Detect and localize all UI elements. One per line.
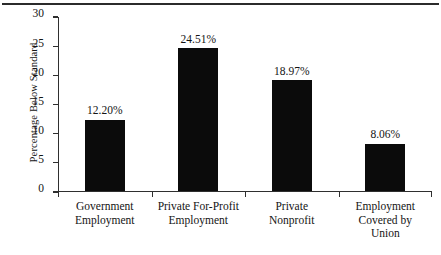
x-category-label-line: Employment [152, 214, 246, 228]
y-tick-20: 20 [53, 75, 58, 76]
x-category-label-line: Nonprofit [245, 214, 339, 228]
x-tick-0 [58, 192, 59, 197]
x-category-label-line: Employment [58, 214, 152, 228]
x-tick-2 [245, 192, 246, 197]
y-tick-label-5: 5 [38, 154, 44, 166]
y-tick-label-15: 15 [33, 96, 45, 108]
top-divider-rule [2, 3, 439, 5]
x-category-label-2: PrivateNonprofit [245, 200, 339, 227]
x-tick-3 [339, 192, 340, 197]
bar-value-label-0: 12.20% [87, 105, 122, 117]
y-tick-15: 15 [53, 104, 58, 105]
y-tick-5: 5 [53, 162, 58, 163]
bar-0[interactable]: 12.20% [85, 120, 125, 191]
bar-value-label-3: 8.06% [370, 129, 400, 141]
x-category-label-1: Private For-ProfitEmployment [152, 200, 246, 227]
x-category-label-line: Employment [339, 200, 433, 214]
y-tick-label-0: 0 [38, 183, 44, 195]
x-category-label-0: GovernmentEmployment [58, 200, 152, 227]
y-axis-line [58, 17, 59, 192]
y-tick-30: 30 [53, 16, 58, 17]
bar-chart-figure: Percentage Below Standard 051015202530 1… [0, 0, 441, 255]
bar-value-label-1: 24.51% [181, 34, 216, 46]
y-tick-label-25: 25 [33, 38, 45, 50]
y-tick-label-30: 30 [33, 8, 45, 20]
x-category-label-3: EmploymentCovered byUnion [339, 200, 433, 241]
bar-2[interactable]: 18.97% [272, 80, 312, 191]
x-category-label-line: Private [245, 200, 339, 214]
bar-value-label-2: 18.97% [274, 66, 309, 78]
x-category-label-line: Union [339, 227, 433, 241]
y-tick-25: 25 [53, 46, 58, 47]
x-tick-1 [152, 192, 153, 197]
x-category-label-line: Government [58, 200, 152, 214]
plot-area: 051015202530 12.20%24.51%18.97%8.06% [58, 17, 432, 192]
y-tick-label-10: 10 [33, 125, 45, 137]
x-tick-4 [431, 192, 432, 197]
y-tick-10: 10 [53, 133, 58, 134]
x-category-label-line: Private For-Profit [152, 200, 246, 214]
y-tick-label-20: 20 [33, 67, 45, 79]
bar-1[interactable]: 24.51% [178, 48, 218, 191]
x-category-label-line: Covered by [339, 214, 433, 228]
bar-3[interactable]: 8.06% [365, 144, 405, 191]
